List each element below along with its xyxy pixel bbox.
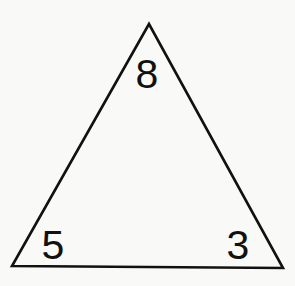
number-top-corner: 8 [127,54,167,95]
number-bottom-left-corner: 5 [33,225,73,266]
number-bottom-right-corner: 3 [218,225,258,266]
